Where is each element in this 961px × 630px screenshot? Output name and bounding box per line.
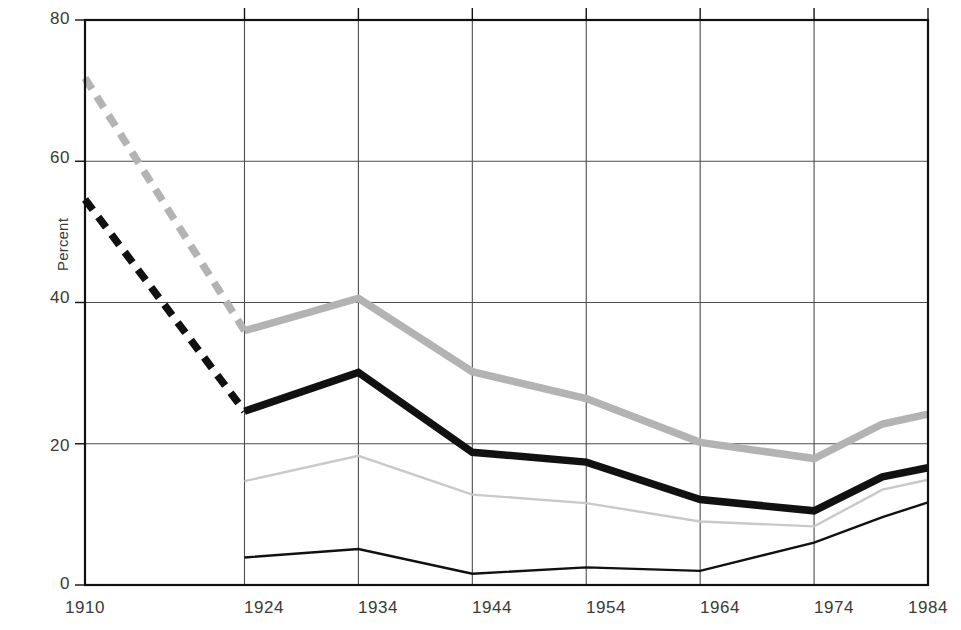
- series-lines: [85, 78, 928, 574]
- chart-figure: Percent 80 60 40 20 0 1910 1924 1934 194…: [0, 0, 961, 630]
- series-thick-gray-dashed: [85, 78, 244, 331]
- series-thick-black-dashed: [85, 199, 244, 411]
- plot-area: [0, 0, 961, 630]
- grid-lines: [75, 8, 928, 585]
